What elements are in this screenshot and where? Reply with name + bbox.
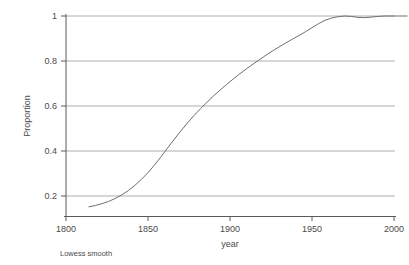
x-tick-label-2000: 2000: [384, 224, 404, 234]
x-tick-label-1850: 1850: [138, 224, 158, 234]
y-tick-label-0-4: 0.4: [44, 146, 57, 156]
x-axis-title: year: [221, 239, 239, 249]
y-tick-label-0-8: 0.8: [44, 56, 57, 66]
x-tick-label-1900: 1900: [220, 224, 240, 234]
x-tick-label-1950: 1950: [302, 224, 322, 234]
lowess-line-chart: 1 0.8 0.6 0.4 0.2 1800 1850 1900 1950 20…: [0, 0, 409, 265]
chart-figure: 1 0.8 0.6 0.4 0.2 1800 1850 1900 1950 20…: [0, 0, 409, 265]
y-tick-label-0-2: 0.2: [44, 191, 57, 201]
y-tick-label-0-6: 0.6: [44, 101, 57, 111]
chart-footnote: Lowess smooth: [60, 249, 112, 258]
x-tick-label-1800: 1800: [56, 224, 76, 234]
y-tick-label-1: 1: [52, 11, 57, 21]
y-axis-title: Proportion: [22, 95, 32, 137]
